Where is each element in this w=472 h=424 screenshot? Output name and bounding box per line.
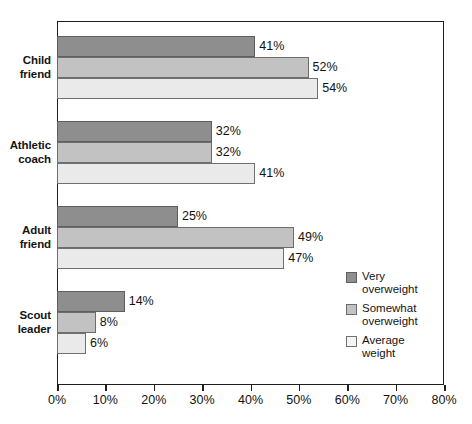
category-label-line: coach (0, 153, 51, 167)
bar-value-label: 49% (294, 227, 323, 248)
legend-item: Somewhatoverweight (346, 302, 442, 327)
bar (57, 121, 212, 142)
legend-label-line: overweight (362, 283, 418, 296)
bar-value-label: 25% (178, 206, 207, 227)
x-axis-tick-label: 10% (82, 393, 128, 407)
bar-value-label: 41% (255, 36, 284, 57)
bar (57, 227, 294, 248)
bar (57, 36, 255, 57)
x-axis-tick (396, 385, 398, 391)
bar-value-label: 32% (212, 142, 241, 163)
legend-label: Somewhatoverweight (362, 302, 418, 327)
bar-value-label: 54% (318, 78, 347, 99)
category-label-line: friend (0, 68, 51, 82)
category-label-line: Athletic (0, 139, 51, 153)
category-label: Adultfriend (0, 224, 51, 251)
bar-value-label: 8% (96, 312, 118, 333)
category-label: Scoutleader (0, 309, 51, 336)
category-label-line: Adult (0, 224, 51, 238)
category-label: Childfriend (0, 54, 51, 81)
legend: VeryoverweightSomewhatoverweightAveragew… (346, 270, 442, 366)
bar-value-label: 41% (255, 163, 284, 184)
bar (57, 248, 284, 269)
x-axis-tick-label: 40% (228, 393, 274, 407)
legend-label-line: overweight (362, 315, 418, 328)
x-axis-tick (299, 385, 301, 391)
bar (57, 312, 96, 333)
x-axis-tick-label: 50% (276, 393, 322, 407)
x-axis-tick-label: 30% (179, 393, 225, 407)
x-axis-tick-label: 70% (373, 393, 419, 407)
x-axis-tick (57, 385, 59, 391)
bar (57, 206, 178, 227)
legend-swatch (346, 272, 357, 283)
x-axis-tick-label: 60% (324, 393, 370, 407)
x-axis-tick (105, 385, 107, 391)
bar (57, 333, 86, 354)
bar (57, 142, 212, 163)
x-axis-tick-label: 20% (131, 393, 177, 407)
bar-value-label: 47% (284, 248, 313, 269)
legend-label-line: Very (362, 270, 418, 283)
category-label-line: leader (0, 323, 51, 337)
bar-value-label: 14% (125, 291, 154, 312)
x-axis-tick (154, 385, 156, 391)
x-axis-tick-label: 80% (421, 393, 467, 407)
x-axis-tick-label: 0% (34, 393, 80, 407)
bar-value-label: 6% (86, 333, 108, 354)
legend-swatch (346, 304, 357, 315)
legend-item: Veryoverweight (346, 270, 442, 295)
category-label-line: Scout (0, 309, 51, 323)
x-axis-tick (251, 385, 253, 391)
x-axis-tick (444, 385, 446, 391)
bar-chart: ChildfriendAthleticcoachAdultfriendScout… (0, 0, 472, 424)
x-axis-tick (202, 385, 204, 391)
x-axis-tick (347, 385, 349, 391)
legend-swatch (346, 336, 357, 347)
category-label-line: friend (0, 238, 51, 252)
legend-label-line: Average (362, 334, 405, 347)
legend-item: Averageweight (346, 334, 442, 359)
bar (57, 78, 318, 99)
bar-value-label: 52% (309, 57, 338, 78)
category-label: Athleticcoach (0, 139, 51, 166)
bar-value-label: 32% (212, 121, 241, 142)
legend-label-line: Somewhat (362, 302, 418, 315)
legend-label-line: weight (362, 347, 405, 360)
legend-label: Averageweight (362, 334, 405, 359)
legend-label: Veryoverweight (362, 270, 418, 295)
category-label-line: Child (0, 54, 51, 68)
bar (57, 57, 309, 78)
bar (57, 163, 255, 184)
bar (57, 291, 125, 312)
